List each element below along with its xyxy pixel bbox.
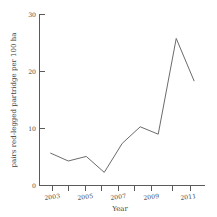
x-tick-label-2009: 2009: [143, 192, 160, 201]
y-tick-label-30: 30: [28, 11, 36, 18]
y-tick-label-20: 20: [28, 68, 36, 75]
line-chart: 0 10 20 30 2003 2005 2007 2009 2011 Year…: [0, 0, 217, 217]
x-tick-label-2007: 2007: [110, 192, 127, 201]
x-tick-label-2011: 2011: [180, 192, 197, 201]
x-tick-label-2005: 2005: [77, 192, 94, 201]
y-tick-label-0: 0: [32, 182, 36, 189]
data-series-line: [50, 38, 194, 172]
y-tick-marks: [40, 15, 45, 186]
y-axis-label: pairs red-legged partridge per 100 ha: [10, 33, 18, 168]
x-axis-label: Year: [111, 205, 128, 213]
x-tick-label-2003: 2003: [44, 192, 61, 201]
y-tick-label-10: 10: [28, 125, 36, 132]
x-tick-marks: [53, 186, 191, 191]
plot-area: 0 10 20 30 2003 2005 2007 2009 2011 Year…: [0, 0, 217, 217]
